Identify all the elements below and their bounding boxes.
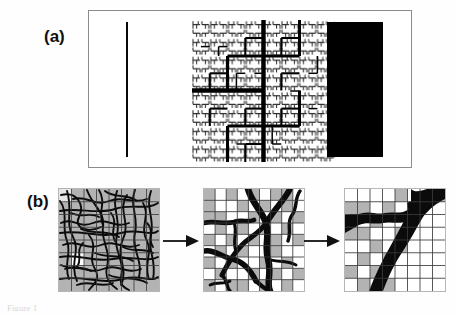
boxcount-step-1 xyxy=(58,188,160,292)
boxcount-step-3-svg xyxy=(345,189,445,291)
panel-a-label: (a) xyxy=(44,27,65,47)
fractal-svg xyxy=(192,20,335,162)
panel-b-label: (b) xyxy=(27,192,49,212)
arrow-step-2-to-3 xyxy=(304,233,342,249)
arrow-right-icon xyxy=(163,233,201,249)
arrow-right-icon xyxy=(304,233,342,249)
figure-caption-fragment: Figure 1 xyxy=(7,303,37,311)
boxcount-step-1-svg xyxy=(59,189,159,291)
filled-rectangle-object xyxy=(327,22,383,157)
boxcount-step-2 xyxy=(203,188,305,292)
boxcount-step-2-svg xyxy=(204,189,304,291)
arrow-step-1-to-2 xyxy=(163,233,201,249)
fractal-pattern-object xyxy=(192,20,335,162)
boxcount-step-3 xyxy=(344,188,446,292)
panel-a-frame xyxy=(88,10,412,168)
euclidean-line-object xyxy=(126,22,128,157)
